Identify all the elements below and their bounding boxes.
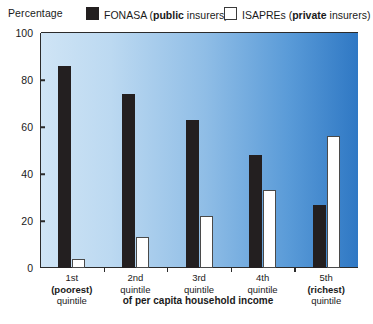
y-tick-label-60: 60 [21, 122, 33, 133]
x-label-line: 5th [307, 272, 344, 284]
bar-fonasa [313, 205, 326, 268]
bar-group [313, 33, 340, 268]
plot-wrap: 020406080100 1st(poorest)quintile2ndquin… [0, 0, 373, 324]
bar-group [186, 33, 213, 268]
bar-fonasa [122, 94, 135, 268]
bar-fonasa [186, 120, 199, 268]
x-label-line: (poorest) [51, 284, 92, 296]
x-label-line: 3rd [184, 272, 214, 284]
bar-isapres [327, 136, 340, 268]
x-label-line: (richest) [307, 284, 344, 296]
x-axis-caption: of per capita household income [123, 295, 274, 306]
bar-fonasa [249, 155, 262, 268]
bar-isapres [72, 259, 85, 268]
x-label-line: 2nd [120, 272, 150, 284]
y-tick-label-100: 100 [15, 28, 33, 39]
x-label-line: quintile [307, 295, 344, 307]
y-tick-label-80: 80 [21, 75, 33, 86]
bar-isapres [200, 216, 213, 268]
x-label-2: 2ndquintile [120, 272, 150, 295]
bar-isapres [136, 237, 149, 268]
x-label-4: 4thquintile [248, 272, 278, 295]
x-label-line: quintile [248, 284, 278, 296]
x-label-line: quintile [184, 284, 214, 296]
x-label-line: 4th [248, 272, 278, 284]
bar-isapres [263, 190, 276, 268]
x-label-1: 1st(poorest)quintile [51, 272, 92, 307]
x-label-line: quintile [120, 284, 150, 296]
y-tick-label-40: 40 [21, 169, 33, 180]
y-tick-label-0: 0 [27, 263, 33, 274]
bar-fonasa [58, 66, 71, 268]
bar-group [58, 33, 85, 268]
x-label-line: quintile [51, 295, 92, 307]
x-label-3: 3rdquintile [184, 272, 214, 295]
bar-groups [40, 33, 358, 268]
x-label-5: 5th(richest)quintile [307, 272, 344, 307]
chart-root: Percentage FONASA (public insurers) ISAP… [0, 0, 373, 324]
bar-group [122, 33, 149, 268]
y-axis: 020406080100 [0, 0, 40, 235]
bar-group [249, 33, 276, 268]
x-label-line: 1st [51, 272, 92, 284]
y-tick-label-20: 20 [21, 216, 33, 227]
